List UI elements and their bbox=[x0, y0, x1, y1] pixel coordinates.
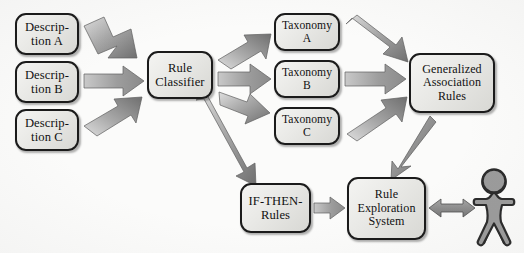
node-description-a-label: Descrip- tion A bbox=[23, 20, 71, 48]
arrow-taxonomy-b-to-gar bbox=[345, 64, 406, 94]
node-generalized-association-rules[interactable]: Generalized Association Rules bbox=[409, 53, 495, 113]
node-taxonomy-b-label: Taxonomy B bbox=[280, 66, 334, 92]
node-taxonomy-a-label: Taxonomy A bbox=[280, 19, 334, 45]
node-generalized-association-rules-label: Generalized Association Rules bbox=[420, 63, 484, 104]
arrow-classifier-to-taxonomy-b bbox=[218, 64, 271, 94]
node-if-then-rules[interactable]: IF-THEN- Rules bbox=[240, 183, 311, 233]
diagram-canvas: Descrip- tion A Descrip- tion B Descrip-… bbox=[0, 0, 524, 253]
node-description-c-label: Descrip- tion C bbox=[23, 116, 71, 144]
node-description-b-label: Descrip- tion B bbox=[23, 68, 71, 96]
node-rule-exploration-system-label: Rule Exploration System bbox=[355, 188, 417, 229]
node-if-then-rules-label: IF-THEN- Rules bbox=[247, 194, 305, 222]
arrow-desc-a-to-classifier bbox=[84, 17, 137, 58]
node-rule-classifier-label: Rule Classifier bbox=[153, 61, 206, 89]
arrow-taxonomy-a-to-gar bbox=[346, 15, 408, 62]
arrow-if-then-rules-to-rule-exploration-system bbox=[314, 197, 345, 219]
node-rule-classifier[interactable]: Rule Classifier bbox=[147, 51, 213, 99]
arrow-desc-b-to-classifier bbox=[84, 66, 144, 96]
node-taxonomy-c[interactable]: Taxonomy C bbox=[274, 107, 340, 145]
node-rule-exploration-system[interactable]: Rule Exploration System bbox=[347, 177, 426, 240]
node-taxonomy-c-label: Taxonomy C bbox=[280, 113, 334, 139]
node-description-b[interactable]: Descrip- tion B bbox=[15, 61, 79, 103]
arrow-classifier-to-taxonomy-a bbox=[218, 34, 271, 69]
node-taxonomy-b[interactable]: Taxonomy B bbox=[274, 60, 340, 98]
arrow-gar-to-rule-exploration-system bbox=[391, 116, 436, 180]
arrow-taxonomy-c-to-gar bbox=[347, 97, 407, 141]
user-person-icon bbox=[474, 170, 515, 246]
arrow-rule-exploration-system-to-user bbox=[429, 199, 475, 217]
arrow-classifier-to-taxonomy-c bbox=[219, 92, 270, 124]
node-description-c[interactable]: Descrip- tion C bbox=[15, 109, 79, 151]
node-taxonomy-a[interactable]: Taxonomy A bbox=[274, 13, 340, 51]
node-description-a[interactable]: Descrip- tion A bbox=[15, 13, 79, 55]
arrow-desc-c-to-classifier bbox=[84, 97, 142, 136]
